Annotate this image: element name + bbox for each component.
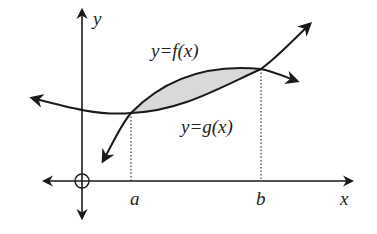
f-curve-label: y=f(x) [149, 40, 199, 62]
diagram-canvas: y x a b y=f(x) y=g(x) [0, 0, 377, 234]
point-b-label: b [256, 188, 266, 209]
x-axis-label: x [339, 188, 349, 209]
area-between-curves-diagram: y x a b y=f(x) y=g(x) [0, 0, 377, 234]
g-curve-label: y=g(x) [179, 116, 233, 138]
point-a-label: a [130, 188, 140, 209]
y-axis-label: y [91, 8, 102, 29]
